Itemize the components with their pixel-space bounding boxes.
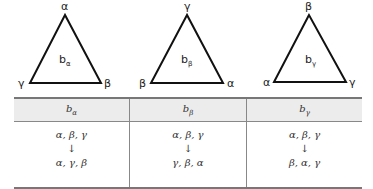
from-order: α, β, γ [15, 128, 128, 142]
header-b-gamma: bγ [247, 98, 362, 122]
center-label: bα [59, 54, 71, 68]
cell-b-beta: α, β, γ ↓ γ, β, α [129, 122, 246, 189]
vertex-right-label: α [227, 78, 234, 89]
down-arrow-icon: ↓ [248, 142, 361, 156]
triangle-b-gamma: β α γ bγ [243, 0, 367, 95]
vertex-right-label: β [104, 78, 111, 89]
table-row: α, β, γ ↓ α, γ, β α, β, γ ↓ γ, β, α α, β… [14, 122, 362, 189]
center-label: bβ [181, 54, 192, 68]
to-order: α, γ, β [15, 156, 128, 170]
cell-b-gamma: α, β, γ ↓ β, α, γ [247, 122, 362, 189]
down-arrow-icon: ↓ [131, 142, 245, 156]
vertex-left-label: β [139, 78, 146, 89]
down-arrow-icon: ↓ [15, 142, 128, 156]
cell-b-alpha: α, β, γ ↓ α, γ, β [14, 122, 129, 189]
table-header-row: bα bβ bγ [14, 98, 362, 122]
header-b-alpha: bα [14, 98, 129, 122]
vertex-left-label: α [263, 77, 270, 88]
to-order: β, α, γ [248, 156, 361, 170]
from-order: α, β, γ [131, 128, 245, 142]
from-order: α, β, γ [248, 128, 361, 142]
triangle-b-beta: γ β α bβ [124, 0, 248, 95]
header-b-beta: bβ [129, 98, 246, 122]
permutation-table: bα bβ bγ α, β, γ ↓ α, γ, β α, β, γ ↓ γ, … [14, 97, 362, 189]
to-order: γ, β, α [131, 156, 245, 170]
vertex-top-label: β [305, 1, 312, 12]
vertex-top-label: α [61, 1, 68, 12]
triangle-b-alpha: α γ β bα [8, 0, 132, 95]
vertex-right-label: γ [349, 77, 356, 88]
vertex-left-label: γ [18, 78, 25, 89]
center-label: bγ [305, 54, 316, 68]
triangle-shape [8, 0, 132, 95]
vertex-top-label: γ [184, 1, 191, 12]
